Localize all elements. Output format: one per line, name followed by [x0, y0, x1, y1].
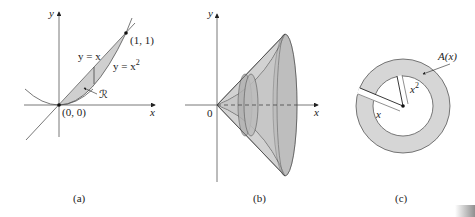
line-label: y = x — [78, 50, 101, 62]
origin-point — [57, 103, 61, 107]
center-point — [401, 104, 405, 108]
y-axis-label: y — [48, 7, 54, 19]
point-label: (1, 1) — [130, 34, 154, 47]
origin-label: (0, 0) — [62, 106, 86, 119]
outer-radius-label: x — [375, 108, 381, 120]
caption-c: (c) — [395, 192, 408, 205]
region-label: ℛ — [99, 88, 108, 100]
origin-label: 0 — [207, 107, 213, 119]
point-1-1 — [124, 31, 128, 35]
line-y-equals-x — [26, 23, 135, 140]
caption-a: (a) — [73, 192, 86, 205]
area-label: A(x) — [437, 50, 457, 63]
panel-b: y x 0 (b) — [185, 7, 319, 205]
curve-label: y = x2 — [113, 58, 140, 72]
y-axis-label: y — [207, 7, 213, 19]
caption-b: (b) — [253, 192, 266, 205]
corner-shade — [455, 205, 475, 217]
figure-canvas: y x (0, 0) (1, 1) y = x y = x2 ℛ (a) y x — [0, 0, 475, 217]
panel-c: A(x) x x2 (c) — [356, 50, 457, 205]
x-axis-label: x — [313, 106, 319, 118]
panel-a: y x (0, 0) (1, 1) y = x y = x2 ℛ (a) — [24, 7, 155, 205]
x-axis-label: x — [149, 106, 155, 118]
